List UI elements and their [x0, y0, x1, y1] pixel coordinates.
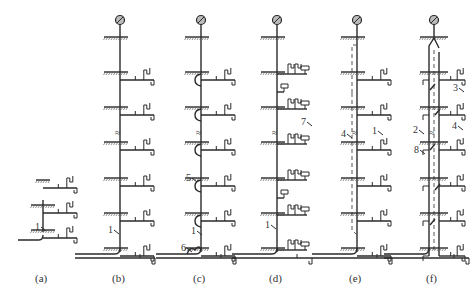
callout-label: 1 — [191, 225, 196, 236]
panel-caption-d: (d) — [269, 272, 282, 285]
callout-label: 1 — [35, 221, 40, 232]
panel-caption-f: (f) — [426, 272, 437, 285]
break-symbol: ≈ — [429, 127, 435, 138]
break-symbol: ≈ — [196, 127, 202, 138]
panel-caption-a: (a) — [35, 272, 48, 285]
callout-label: 1 — [265, 219, 270, 230]
callout-label: 2 — [413, 124, 418, 135]
break-symbol: ≈ — [352, 127, 358, 138]
panel-caption-c: (c) — [193, 272, 206, 285]
panel-caption-e: (e) — [349, 272, 362, 285]
panel-e: ≈ — [312, 16, 392, 265]
panel-caption-b: (b) — [112, 272, 125, 285]
callout-label: 5 — [186, 172, 191, 183]
callout-label: 4 — [452, 120, 457, 131]
panel-b: ≈ — [75, 16, 155, 265]
break-symbol: ≈ — [115, 127, 121, 138]
drainage-stack-diagram: ≈≈≈≈≈ (a)(b)(c)(d)(e)(f) 1151671413248 — [0, 0, 475, 293]
panel-f: ≈ — [384, 16, 469, 265]
panel-d: ≈ — [232, 16, 312, 265]
break-symbol: ≈ — [272, 127, 278, 138]
callout-label: 7 — [301, 116, 306, 127]
callout-label: 8 — [414, 144, 419, 155]
callout-label: 6 — [181, 242, 186, 253]
callout-label: 1 — [108, 224, 113, 235]
callouts-group: 1151671413248 — [35, 82, 464, 253]
callout-label: 3 — [453, 82, 458, 93]
panel-c: ≈ — [156, 16, 236, 265]
captions-group: (a)(b)(c)(d)(e)(f) — [35, 272, 437, 285]
callout-label: 4 — [341, 128, 346, 139]
panel-a — [18, 176, 77, 243]
panels-group: ≈≈≈≈≈ — [18, 16, 469, 265]
callout-label: 1 — [372, 125, 377, 136]
